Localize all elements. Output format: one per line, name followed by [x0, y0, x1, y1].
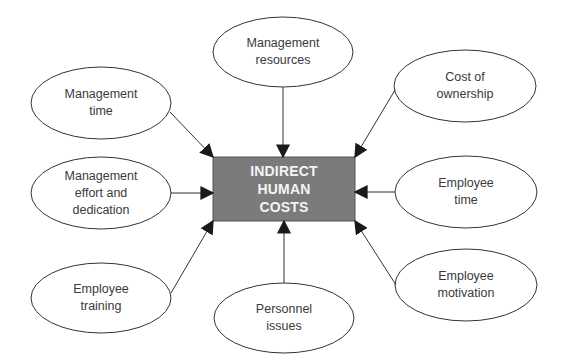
node-management-effort: Management effort and dedication: [31, 157, 171, 229]
node-employee-motivation: Employee motivation: [395, 249, 537, 321]
node-cost-of-ownership: Cost of ownership: [394, 50, 536, 122]
arrow-cost-of-ownership: [355, 90, 395, 157]
node-employee-training: Employee training: [31, 263, 171, 333]
node-employee-time: Employee time: [395, 156, 537, 228]
center-label: INDIRECT HUMAN COSTS: [213, 157, 355, 221]
arrow-employee-motivation: [355, 221, 396, 285]
arrow-management-time: [170, 112, 213, 157]
diagram-canvas: INDIRECT HUMAN COSTS Management time Man…: [0, 0, 569, 364]
node-management-resources: Management resources: [213, 17, 353, 87]
node-management-time: Management time: [31, 67, 171, 139]
arrow-employee-training: [171, 221, 213, 293]
node-personnel-issues: Personnel issues: [214, 283, 354, 353]
